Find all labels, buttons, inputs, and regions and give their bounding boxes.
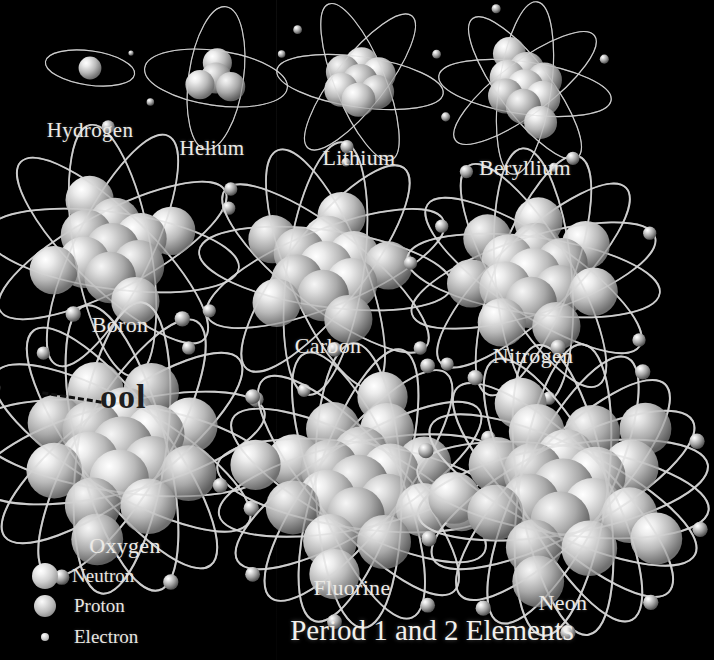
electron	[689, 434, 704, 449]
legend-label-electron: Electron	[74, 626, 138, 648]
electron	[418, 443, 433, 458]
nucleus	[185, 48, 245, 101]
electron	[600, 55, 609, 64]
electron	[293, 25, 302, 34]
watermark-text: ool	[100, 378, 146, 416]
electron	[643, 226, 656, 239]
electron	[492, 4, 501, 13]
electron	[245, 389, 260, 404]
element-label-nitrogen: Nitrogen	[194, 343, 714, 369]
figure-title: Period 1 and 2 Elements	[290, 614, 574, 647]
nucleus	[324, 47, 395, 117]
electron	[403, 256, 416, 269]
element-label-beryllium: Beryllium	[186, 155, 714, 181]
electron-icon	[41, 633, 49, 641]
electron	[692, 522, 707, 537]
electron	[212, 478, 227, 493]
element-label-oxygen: Oxygen	[0, 533, 464, 559]
nucleus	[79, 57, 102, 80]
element-label-neon: Neon	[224, 590, 714, 616]
electron	[224, 182, 237, 195]
legend-item-electron: Electron	[41, 626, 138, 648]
electron	[468, 370, 483, 385]
